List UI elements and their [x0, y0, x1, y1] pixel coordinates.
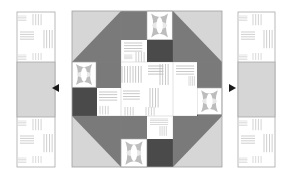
flower-patch-right: [197, 88, 222, 114]
left-strip: [17, 12, 55, 167]
dark-square-top: [147, 40, 173, 64]
arrow-right-icon: [229, 84, 236, 92]
flower-patch-top: [147, 11, 172, 40]
dark-square-bottom: [147, 139, 173, 167]
flower-patch-left: [72, 62, 96, 87]
flower-patch-bottom: [121, 139, 147, 167]
right-strip-middle: [238, 62, 275, 117]
right-strip: [238, 12, 275, 167]
center-block: [72, 11, 222, 167]
quilt-diagram: [0, 0, 292, 179]
dark-square-left: [72, 88, 97, 116]
left-strip-middle: [17, 62, 55, 117]
